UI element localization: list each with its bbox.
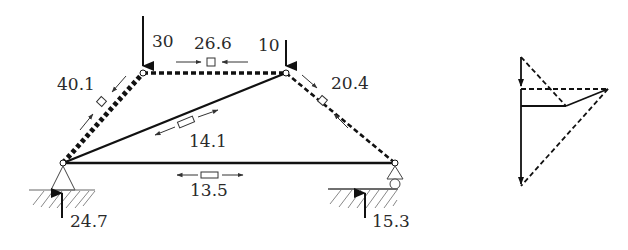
member-ad-force-label: 13.5 xyxy=(190,180,228,200)
member-ac-force-label: 14.1 xyxy=(189,131,227,151)
roller-support-triangle-icon xyxy=(387,166,403,179)
member-bc-indicator xyxy=(176,58,248,66)
roller-wheel-icon xyxy=(390,179,400,189)
force-polygon xyxy=(521,57,608,186)
compression-diamond-icon xyxy=(318,96,328,106)
tension-rectangle-icon xyxy=(177,116,194,128)
ground-hatch-icon xyxy=(33,191,95,208)
member-cd-force-label: 20.4 xyxy=(331,73,369,93)
truss-diagram-figure: 30 10 24.7 15.3 26.6 40.1 20.4 14.1 13.5 xyxy=(0,0,628,250)
compression-diamond-icon xyxy=(97,97,107,107)
force-polygon-member-ac xyxy=(566,89,608,106)
member-ac-tension xyxy=(63,73,286,163)
pin-support-triangle-icon xyxy=(51,166,75,190)
member-ad-indicator xyxy=(177,172,243,178)
joint-b xyxy=(140,70,146,76)
reaction-label-left: 24.7 xyxy=(70,211,108,231)
member-bc-force-label: 26.6 xyxy=(194,33,232,53)
compression-square-icon xyxy=(207,58,215,66)
joint-c xyxy=(283,70,289,76)
member-ab-force-label: 40.1 xyxy=(57,74,95,94)
force-polygon-member-ab xyxy=(521,57,566,106)
load-label-30: 30 xyxy=(152,31,174,51)
tension-rectangle-icon xyxy=(201,172,218,178)
ground-hatch-icon xyxy=(330,190,397,208)
force-polygon-member-cd xyxy=(521,89,608,186)
reaction-label-right: 15.3 xyxy=(372,211,410,231)
load-label-10: 10 xyxy=(258,35,280,55)
